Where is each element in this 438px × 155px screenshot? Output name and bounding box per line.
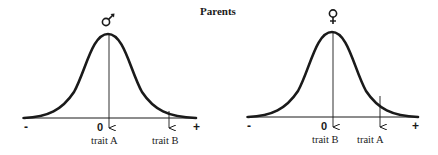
male-bell-curve <box>24 34 196 118</box>
male-axis-plus: + <box>193 120 200 134</box>
female-trait-b-label: trait B <box>312 134 339 145</box>
female-symbol-icon <box>329 10 336 24</box>
female-panel: - 0 + trait B trait A <box>246 10 419 145</box>
male-symbol-icon <box>102 14 114 26</box>
male-trait-b-label: trait B <box>152 135 179 146</box>
female-trait-a-label: trait A <box>357 134 384 145</box>
male-trait-a-label: trait A <box>91 135 118 146</box>
female-axis-minus: - <box>247 119 251 133</box>
male-panel: - 0 + trait A trait B <box>22 14 200 147</box>
female-axis-plus: + <box>412 119 419 133</box>
male-axis-minus: - <box>24 120 28 134</box>
female-axis-zero: 0 <box>321 120 327 132</box>
male-axis-zero: 0 <box>97 121 103 133</box>
parents-distribution-diagram: - 0 + trait A trait B - 0 + trait B trai… <box>0 0 438 155</box>
